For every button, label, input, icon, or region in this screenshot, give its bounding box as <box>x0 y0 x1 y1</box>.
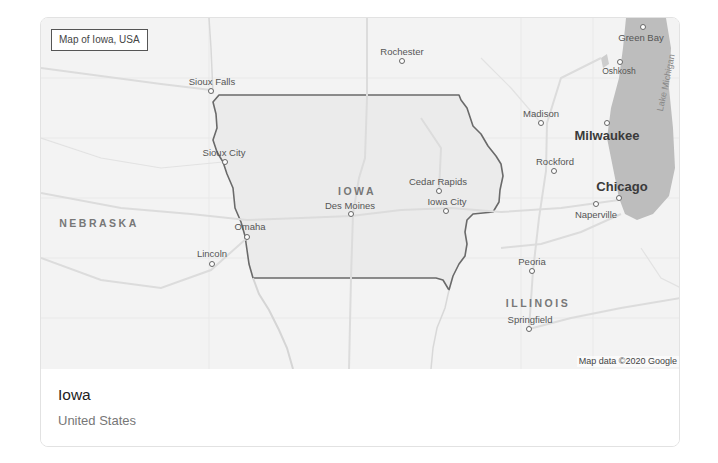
state-label-iowa: IOWA <box>338 186 376 197</box>
map-attribution: Map data ©2020 Google <box>577 356 679 367</box>
city-label-cedar-rapids: Cedar Rapids <box>409 176 467 187</box>
city-label-green-bay: Green Bay <box>618 32 663 43</box>
city-marker-icon[interactable] <box>604 120 610 126</box>
city-label-naperville: Naperville <box>575 209 617 220</box>
city-label-springfield: Springfield <box>508 314 553 325</box>
city-marker-icon[interactable] <box>551 168 557 174</box>
city-label-chicago: Chicago <box>596 179 647 194</box>
city-label-peoria: Peoria <box>518 256 545 267</box>
state-label-illinois: ILLINOIS <box>506 298 570 309</box>
city-marker-icon[interactable] <box>208 88 214 94</box>
city-marker-icon[interactable] <box>640 24 646 30</box>
city-marker-icon[interactable] <box>209 261 215 267</box>
city-marker-icon[interactable] <box>529 268 535 274</box>
city-marker-icon[interactable] <box>593 201 599 207</box>
map-caption: Map of Iowa, USA <box>51 29 148 51</box>
city-label-rochester: Rochester <box>380 46 423 57</box>
city-marker-icon[interactable] <box>399 58 405 64</box>
city-label-sioux-falls: Sioux Falls <box>189 76 235 87</box>
city-label-milwaukee: Milwaukee <box>574 128 639 143</box>
city-marker-icon[interactable] <box>244 234 250 240</box>
city-label-rockford: Rockford <box>536 156 574 167</box>
city-label-sioux-city: Sioux City <box>203 147 246 158</box>
place-card[interactable]: Map of Iowa, USA IOWA NEBRASKA ILLINOIS … <box>40 17 680 447</box>
place-info: Iowa United States <box>41 369 680 447</box>
city-label-iowa-city: Iowa City <box>427 196 466 207</box>
city-marker-icon[interactable] <box>526 326 532 332</box>
city-label-lincoln: Lincoln <box>197 248 227 259</box>
city-marker-icon[interactable] <box>443 208 449 214</box>
city-marker-icon[interactable] <box>616 195 622 201</box>
map-view[interactable]: Map of Iowa, USA IOWA NEBRASKA ILLINOIS … <box>41 18 680 369</box>
city-marker-icon[interactable] <box>436 188 442 194</box>
city-marker-icon[interactable] <box>538 120 544 126</box>
city-marker-icon[interactable] <box>617 59 623 65</box>
place-title[interactable]: Iowa <box>58 386 91 404</box>
city-label-omaha: Omaha <box>234 221 265 232</box>
city-marker-icon[interactable] <box>348 211 354 217</box>
place-subtitle: United States <box>58 413 136 429</box>
city-label-oshkosh: Oshkosh <box>602 66 636 77</box>
city-label-madison: Madison <box>523 108 559 119</box>
city-marker-icon[interactable] <box>222 159 228 165</box>
state-label-nebraska: NEBRASKA <box>59 218 139 229</box>
city-label-des-moines: Des Moines <box>325 200 375 211</box>
